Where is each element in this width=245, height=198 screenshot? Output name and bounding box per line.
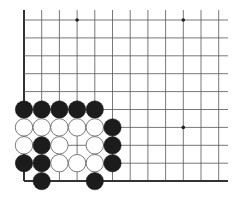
white-stone bbox=[68, 119, 85, 136]
white-stone bbox=[68, 155, 85, 172]
black-stone bbox=[86, 101, 103, 118]
black-stone bbox=[33, 172, 50, 189]
white-stone bbox=[15, 119, 32, 136]
black-stone bbox=[15, 155, 32, 172]
black-stone bbox=[33, 155, 50, 172]
white-stone bbox=[86, 137, 103, 154]
white-stone bbox=[51, 137, 68, 154]
stones-layer bbox=[15, 101, 121, 190]
star-point bbox=[182, 18, 186, 22]
black-stone bbox=[15, 101, 32, 118]
black-stone bbox=[104, 155, 121, 172]
black-stone bbox=[33, 101, 50, 118]
white-stone bbox=[15, 137, 32, 154]
white-stone bbox=[33, 119, 50, 136]
go-board bbox=[0, 0, 245, 198]
star-point bbox=[75, 18, 79, 22]
black-stone bbox=[33, 137, 50, 154]
white-stone bbox=[51, 155, 68, 172]
star-point bbox=[182, 126, 186, 130]
white-stone bbox=[51, 119, 68, 136]
white-stone bbox=[86, 119, 103, 136]
white-stone bbox=[86, 155, 103, 172]
black-stone bbox=[51, 101, 68, 118]
black-stone bbox=[104, 119, 121, 136]
black-stone bbox=[68, 101, 85, 118]
black-stone bbox=[104, 137, 121, 154]
black-stone bbox=[86, 172, 103, 189]
